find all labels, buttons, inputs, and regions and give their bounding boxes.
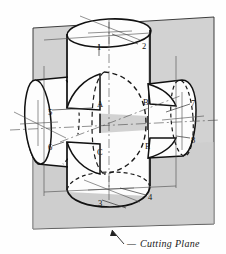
- label-8: 8: [191, 135, 195, 145]
- caption-group: — Cutting Plane: [126, 238, 200, 249]
- caption-leader-arrowhead: [110, 230, 117, 236]
- caption-dash: —: [126, 238, 136, 249]
- label-point-b: B: [143, 97, 149, 107]
- label-6: 6: [48, 142, 52, 152]
- label-point-c: C: [97, 147, 103, 157]
- label-1: 1: [97, 42, 101, 52]
- label-point-a: A: [97, 99, 104, 109]
- label-point-e: E: [145, 141, 150, 151]
- label-5: 5: [48, 107, 52, 117]
- caption-leader: [110, 230, 124, 244]
- caption-leader-line: [112, 230, 124, 244]
- label-7: 7: [191, 98, 195, 108]
- drawing-canvas: 1 2 3 4 5 6 7 8 A B C E — Cutting Plane: [0, 0, 226, 254]
- label-3: 3: [98, 198, 102, 208]
- technical-drawing-figure: 1 2 3 4 5 6 7 8 A B C E — Cutting Plane: [0, 0, 226, 254]
- label-2: 2: [142, 41, 146, 51]
- caption-label: Cutting Plane: [140, 238, 200, 249]
